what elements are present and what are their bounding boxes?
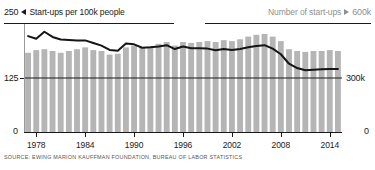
x-axis-tick-mark — [36, 133, 37, 137]
left-axis-max-label: 250 — [4, 7, 18, 17]
right-axis-tick-0: 0 — [364, 126, 369, 136]
x-axis-label-1978: 1978 — [27, 140, 46, 150]
bar — [156, 44, 162, 132]
x-axis-tick-mark — [85, 133, 86, 137]
bar — [41, 49, 47, 132]
plot-area — [24, 24, 342, 132]
source-note: SOURCE: EWING MARION KAUFFMAN FOUNDATION… — [4, 154, 242, 160]
bar — [33, 50, 39, 132]
triangle-left-icon — [21, 9, 26, 15]
x-axis-tick-mark — [281, 133, 282, 137]
bar — [74, 49, 80, 132]
bar — [164, 42, 170, 132]
bar — [115, 54, 121, 132]
bar — [253, 35, 259, 132]
bar — [123, 47, 129, 132]
x-axis-label-1990: 1990 — [125, 140, 144, 150]
bar — [262, 34, 268, 132]
bar — [25, 53, 31, 132]
x-axis-label-1984: 1984 — [76, 140, 95, 150]
bar — [107, 55, 113, 132]
bar — [302, 52, 308, 132]
left-axis-tick-125: 125 — [4, 73, 18, 83]
chart-legend-header: 250 Start-ups per 100k people Number of … — [0, 7, 375, 23]
right-axis-max-label: 600k — [352, 7, 371, 17]
left-axis-tick-0: 0 — [13, 126, 18, 136]
bar — [180, 42, 186, 132]
bar — [335, 51, 341, 132]
x-axis-label-2014: 2014 — [321, 140, 340, 150]
left-series-label: Start-ups per 100k people — [29, 7, 124, 17]
bar — [205, 41, 211, 132]
bar — [237, 39, 243, 132]
x-axis-label-2008: 2008 — [272, 140, 291, 150]
bar — [90, 50, 96, 132]
x-axis-tick-mark — [232, 133, 233, 137]
x-axis-label-2002: 2002 — [223, 140, 242, 150]
bar — [58, 53, 64, 132]
bar — [172, 46, 178, 132]
bar — [139, 47, 145, 132]
x-axis-tick-mark — [330, 133, 331, 137]
bar — [196, 42, 202, 132]
bar — [213, 42, 219, 132]
y-axis-spine — [24, 24, 25, 132]
bar — [188, 43, 194, 132]
triangle-right-icon — [344, 9, 349, 15]
right-axis-tick-300k: 300k — [346, 73, 365, 83]
chart-canvas — [24, 24, 342, 132]
bar — [221, 40, 227, 132]
x-axis-label-1996: 1996 — [174, 140, 193, 150]
bar — [245, 37, 251, 132]
x-axis-tick-mark — [183, 133, 184, 137]
legend-left-axis: 250 Start-ups per 100k people — [4, 7, 125, 17]
bar — [131, 46, 137, 132]
bar-series — [25, 34, 341, 132]
legend-right-axis: Number of start-ups 600k — [268, 7, 371, 17]
bar — [327, 50, 333, 132]
bar — [319, 51, 325, 132]
bar — [311, 51, 317, 132]
bar — [147, 47, 153, 133]
chart-figure: 250 Start-ups per 100k people Number of … — [0, 0, 375, 170]
bar — [66, 51, 72, 132]
bar — [82, 47, 88, 132]
bar — [99, 51, 105, 132]
bar — [294, 51, 300, 132]
x-axis-tick-mark — [134, 133, 135, 137]
bar — [50, 51, 56, 132]
bar — [229, 41, 235, 132]
right-series-label: Number of start-ups — [268, 7, 341, 17]
